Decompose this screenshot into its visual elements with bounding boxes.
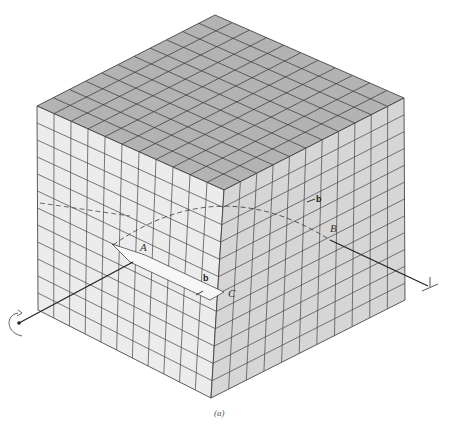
figure-caption: (a) (214, 408, 225, 418)
label-B: B (330, 222, 337, 234)
label-C: C (228, 287, 236, 299)
label-b-top: b (316, 194, 322, 204)
axis-point (17, 321, 21, 325)
screw-dislocation-diagram: A B C b b (a) (0, 0, 453, 430)
label-A: A (139, 241, 147, 253)
label-b-step: b (203, 273, 209, 283)
rotation-arrow-icon (9, 313, 22, 336)
